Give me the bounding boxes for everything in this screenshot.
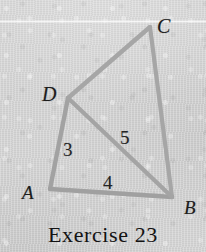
edge-length-label-AD: 3 bbox=[63, 140, 73, 159]
figure-page: A B C D 3 4 5 Exercise 23 bbox=[0, 0, 206, 252]
vertex-label-A: A bbox=[22, 183, 34, 202]
vertex-label-B: B bbox=[184, 198, 196, 217]
quadrilateral-diagram bbox=[0, 0, 206, 252]
edge-C-B bbox=[150, 27, 172, 197]
vertex-label-D: D bbox=[42, 84, 56, 104]
edge-length-label-DB: 5 bbox=[120, 128, 130, 147]
edge-D-C bbox=[68, 27, 150, 98]
edge-length-label-AB: 4 bbox=[103, 173, 113, 192]
vertex-label-C: C bbox=[157, 16, 170, 36]
figure-caption: Exercise 23 bbox=[0, 222, 206, 248]
